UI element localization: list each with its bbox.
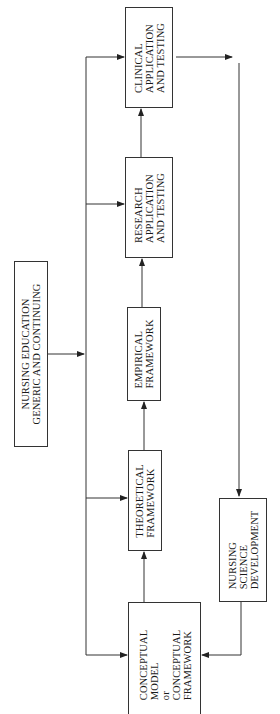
research-application-label: RESEARCH APPLICATION AND TESTING: [133, 172, 166, 242]
empirical-framework-box: EMPIRICAL FRAMEWORK: [127, 307, 161, 401]
theoretical-framework-box: THEORETICAL FRAMEWORK: [128, 450, 162, 551]
research-application-box: RESEARCH APPLICATION AND TESTING: [125, 157, 173, 258]
theoretical-framework-label: THEORETICAL FRAMEWORK: [134, 464, 156, 537]
arrow-science-to-conceptual: [202, 601, 241, 655]
conceptual-model-box: CONCEPTUAL MODEL or CONCEPTUAL FRAMEWORK: [128, 602, 201, 714]
nursing-science-development-label: NURSING SCIENCE DEVELOPMENT: [227, 511, 260, 590]
nursing-education-box: NURSING EDUCATION GENERIC AND CONTINUING: [14, 261, 48, 447]
conceptual-model-label: CONCEPTUAL MODEL or CONCEPTUAL FRAMEWORK: [137, 630, 192, 700]
clinical-application-label: CLINICAL APPLICATION AND TESTING: [133, 22, 166, 92]
empirical-framework-label: EMPIRICAL FRAMEWORK: [133, 319, 155, 388]
nursing-science-development-box: NURSING SCIENCE DEVELOPMENT: [219, 498, 267, 602]
nursing-education-label: NURSING EDUCATION GENERIC AND CONTINUING: [20, 283, 42, 424]
clinical-application-box: CLINICAL APPLICATION AND TESTING: [125, 7, 173, 108]
